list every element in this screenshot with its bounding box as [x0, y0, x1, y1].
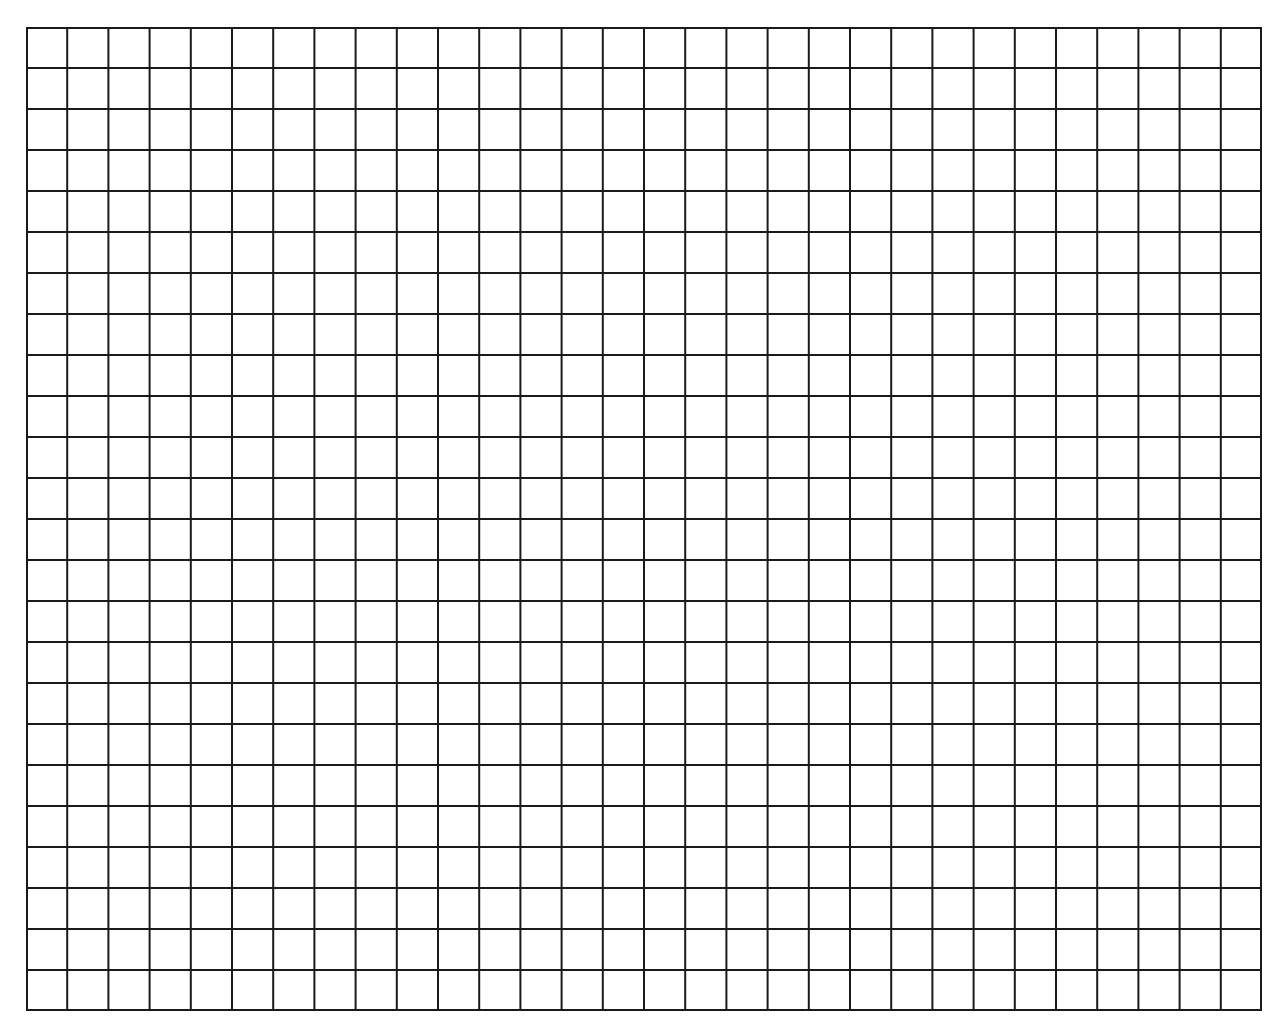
grid-lines — [26, 27, 1262, 1011]
grid-paper — [26, 27, 1262, 1011]
